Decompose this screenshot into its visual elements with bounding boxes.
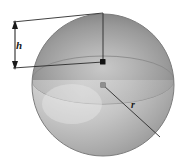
cap-center-point-marker: [100, 59, 106, 65]
sphere-cap-figure: h r: [0, 0, 184, 164]
sphere-diagram-canvas: h r: [0, 0, 184, 164]
sphere-highlight: [42, 84, 102, 124]
height-arrow-head-bottom: [12, 61, 18, 70]
radius-label: r: [131, 99, 135, 110]
height-label: h: [16, 39, 22, 51]
sphere-center-point-marker: [101, 83, 106, 88]
